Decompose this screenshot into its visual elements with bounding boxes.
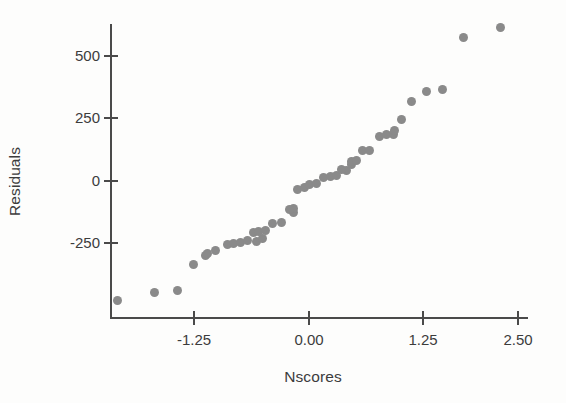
data-point bbox=[422, 87, 431, 96]
y-tick-label-250: 250 bbox=[44, 109, 100, 126]
data-point bbox=[150, 288, 159, 297]
scatter-plot-figure: Residuals Nscores 500 250 0 -250 -1.25 0… bbox=[0, 0, 566, 403]
y-tick-mark-250 bbox=[104, 117, 118, 119]
data-point bbox=[243, 236, 252, 245]
data-point bbox=[189, 260, 198, 269]
data-point bbox=[496, 23, 505, 32]
data-point bbox=[438, 85, 447, 94]
data-point bbox=[277, 218, 286, 227]
x-tick-label-125: 1.25 bbox=[383, 331, 463, 348]
x-tick-mark-0 bbox=[308, 311, 310, 325]
data-point bbox=[173, 286, 182, 295]
y-tick-label-m250: -250 bbox=[44, 234, 100, 251]
x-tick-label-0: 0.00 bbox=[269, 331, 349, 348]
data-point bbox=[397, 115, 406, 124]
x-tick-mark-125 bbox=[422, 311, 424, 325]
data-point bbox=[285, 205, 294, 214]
data-point bbox=[407, 97, 416, 106]
data-point bbox=[459, 33, 468, 42]
y-tick-mark-500 bbox=[104, 55, 118, 57]
y-tick-mark-0 bbox=[104, 180, 118, 182]
data-point bbox=[352, 156, 361, 165]
y-tick-label-500: 500 bbox=[44, 47, 100, 64]
y-tick-label-group: 500 250 0 -250 bbox=[0, 0, 100, 403]
x-axis-spine bbox=[110, 317, 528, 319]
x-tick-mark-m125 bbox=[193, 311, 195, 325]
y-axis-spine bbox=[110, 24, 112, 318]
x-tick-mark-250 bbox=[517, 311, 519, 325]
data-point bbox=[261, 226, 270, 235]
data-point bbox=[337, 165, 346, 174]
y-tick-label-0: 0 bbox=[44, 172, 100, 189]
data-point bbox=[365, 146, 374, 155]
data-point bbox=[268, 219, 277, 228]
x-tick-label-250: 2.50 bbox=[478, 331, 558, 348]
data-point bbox=[113, 296, 122, 305]
x-tick-label-m125: -1.25 bbox=[154, 331, 234, 348]
y-tick-mark-m250 bbox=[104, 242, 118, 244]
data-point bbox=[211, 246, 220, 255]
